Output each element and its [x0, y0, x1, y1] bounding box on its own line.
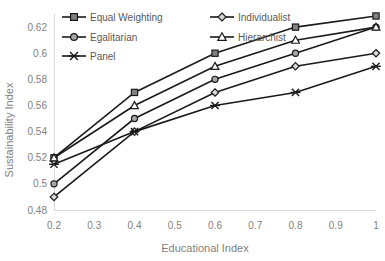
legend-label: Egalitarian [90, 32, 137, 43]
marker-triangle-3-1 [131, 102, 139, 109]
x-axis-title: Educational Index [161, 242, 249, 254]
marker-x-4-4 [371, 63, 381, 70]
y-axis-title: Sustainability Index [3, 82, 15, 177]
y-tick-label: 0.6 [33, 48, 47, 59]
marker-square-0-3 [292, 24, 298, 30]
marker-square-0-2 [212, 50, 218, 56]
marker-circle-legend-2 [71, 34, 78, 41]
x-tick-label: 0.3 [87, 220, 101, 231]
x-tick-labels: 0.20.30.40.50.60.70.80.91 [47, 220, 379, 231]
y-tick-label: 0.54 [28, 126, 48, 137]
legend-item-hierarchist[interactable]: Hierarchist [210, 32, 286, 43]
y-tick-label: 0.58 [28, 74, 48, 85]
marker-diamond-1-2 [211, 89, 218, 96]
marker-x-4-3 [291, 89, 301, 96]
chart-container: 0.480.50.520.540.560.580.60.62 0.20.30.4… [0, 0, 385, 261]
y-tick-label: 0.62 [28, 22, 48, 33]
x-tick-label: 1 [373, 220, 379, 231]
marker-x-4-2 [210, 102, 220, 109]
x-tick-label: 0.4 [128, 220, 142, 231]
x-tick-label: 0.2 [47, 220, 61, 231]
y-tick-labels: 0.480.50.520.540.560.580.60.62 [28, 22, 48, 216]
legend-item-individualist[interactable]: Individualist [210, 12, 290, 23]
marker-diamond-1-3 [292, 63, 299, 70]
y-tick-label: 0.5 [33, 178, 47, 189]
marker-circle-2-1 [131, 115, 137, 121]
marker-circle-2-0 [51, 181, 57, 187]
legend-label: Individualist [238, 12, 290, 23]
legend-item-egalitarian[interactable]: Egalitarian [62, 32, 137, 43]
y-tick-label: 0.56 [28, 100, 48, 111]
y-tick-label: 0.52 [28, 152, 48, 163]
marker-circle-2-3 [292, 50, 298, 56]
legend-label: Panel [90, 51, 116, 62]
x-tick-label: 0.8 [289, 220, 303, 231]
legend-item-panel[interactable]: Panel [62, 51, 116, 62]
marker-x-legend-4 [69, 52, 79, 60]
marker-square-0-4 [373, 13, 379, 19]
line-chart: 0.480.50.520.540.560.580.60.62 0.20.30.4… [0, 0, 385, 261]
legend-item-equal-weighting[interactable]: Equal Weighting [62, 12, 163, 23]
x-tick-label: 0.5 [168, 220, 182, 231]
marker-circle-2-2 [212, 76, 218, 82]
y-tick-label: 0.48 [28, 205, 48, 216]
legend-label: Equal Weighting [90, 12, 163, 23]
marker-diamond-legend-1 [218, 13, 226, 21]
chart-legend: Equal WeightingIndividualistEgalitarianH… [62, 12, 290, 62]
marker-diamond-1-4 [372, 50, 379, 57]
x-tick-label: 0.6 [208, 220, 222, 231]
series-individualist [50, 50, 379, 201]
marker-square-0-1 [131, 89, 137, 95]
legend-label: Hierarchist [238, 32, 286, 43]
marker-square-legend-0 [71, 14, 78, 21]
x-tick-label: 0.9 [329, 220, 343, 231]
series-line-1 [54, 53, 376, 197]
x-tick-label: 0.7 [248, 220, 262, 231]
